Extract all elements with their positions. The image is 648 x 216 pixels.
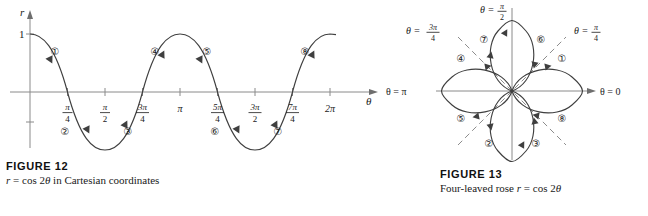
rose-marker-8: ⑧	[558, 113, 567, 124]
svg-text:π: π	[594, 23, 599, 32]
svg-text:θ =: θ =	[406, 25, 420, 36]
svg-text:4: 4	[431, 34, 435, 43]
rose-marker-2: ②	[485, 138, 494, 149]
svg-text:π: π	[500, 2, 505, 11]
svg-text:3π: 3π	[428, 23, 438, 32]
figure-12-caption-eq: =	[10, 174, 22, 186]
segment-marker-7: ⑦	[274, 126, 283, 137]
svg-text:π: π	[65, 102, 70, 112]
ray-label-theta-3pi-over-4: θ = 3π 4	[406, 23, 440, 43]
rose-marker-5: ⑤	[457, 113, 466, 124]
svg-text:4: 4	[140, 114, 145, 124]
figure-12-panel: r θ 1 π 4 π 2 3π 4 π 5π 4	[0, 0, 324, 216]
figure-13-caption-lead: Four-leaved rose	[440, 182, 517, 194]
svg-text:2: 2	[500, 13, 504, 22]
rose-marker-4: ④	[457, 53, 466, 64]
segment-marker-4: ④	[151, 46, 160, 57]
svg-text:θ =: θ =	[480, 4, 494, 15]
segment-marker-2: ②	[61, 126, 70, 137]
figure-13-plot: θ = 0 θ = π θ = π 4 θ = π 2 θ = 3π	[324, 0, 648, 170]
svg-text:4: 4	[215, 114, 220, 124]
x-tick-label-3pi-over-2: 3π 2	[249, 102, 262, 124]
svg-text:3π: 3π	[249, 102, 260, 112]
r-axis-label: r	[20, 6, 25, 18]
svg-text:θ =: θ =	[574, 25, 588, 36]
figure-12-caption: FIGURE 12 r = cos 2θ in Cartesian coordi…	[6, 160, 318, 187]
x-tick-label-7pi-over-4: 7π 4	[286, 102, 299, 124]
svg-text:4: 4	[594, 34, 598, 43]
figure-12-caption-cos: cos 2	[22, 174, 45, 186]
rose-marker-7: ⑦	[480, 34, 489, 45]
x-tick-label-3pi-over-4: 3π 4	[136, 102, 149, 124]
rose-marker-1: ①	[558, 53, 567, 64]
svg-text:7π: 7π	[288, 102, 298, 112]
ray-label-theta-pi-over-2: θ = π 2	[480, 2, 507, 22]
figure-13-caption-cos: cos 2	[533, 182, 556, 194]
x-tick-label-5pi-over-4: 5π 4	[211, 102, 224, 124]
ray-label-theta-pi-over-4: θ = π 4	[574, 23, 601, 43]
theta-axis	[10, 89, 378, 95]
segment-marker-1: ①	[51, 46, 60, 57]
svg-text:2: 2	[103, 114, 108, 124]
svg-text:2: 2	[253, 114, 258, 124]
svg-text:4: 4	[65, 114, 70, 124]
figure-13-caption-theta: θ	[556, 182, 561, 194]
svg-text:3π: 3π	[137, 102, 148, 112]
r-axis	[27, 10, 33, 148]
figure-12-title: FIGURE 12	[6, 160, 318, 173]
rose-marker-6: ⑥	[537, 34, 546, 45]
segment-marker-5: ⑤	[203, 46, 212, 57]
segment-marker-8: ⑧	[301, 46, 310, 57]
ray-label-theta-pi: θ = π	[386, 86, 406, 97]
ray-label-theta-0: θ = 0	[600, 86, 620, 97]
y-value-one-label: 1	[19, 28, 25, 40]
figure-12-subtitle: r = cos 2θ in Cartesian coordinates	[6, 173, 318, 187]
figure-pair-page: r θ 1 π 4 π 2 3π 4 π 5π 4	[0, 0, 648, 216]
segment-marker-3: ③	[124, 126, 133, 137]
svg-text:4: 4	[290, 114, 295, 124]
figure-13-caption: FIGURE 13 Four-leaved rose r = cos 2θ	[440, 168, 648, 195]
figure-13-title: FIGURE 13	[440, 168, 648, 181]
x-tick-label-pi-over-2: π 2	[100, 102, 110, 124]
svg-text:5π: 5π	[213, 102, 223, 112]
svg-text:π: π	[103, 102, 108, 112]
x-tick-label-pi: π	[177, 103, 183, 114]
figure-13-subtitle: Four-leaved rose r = cos 2θ	[440, 181, 648, 195]
rose-marker-3: ③	[532, 138, 541, 149]
figure-13-caption-eq: =	[521, 182, 533, 194]
figure-12-caption-tail: in Cartesian coordinates	[50, 174, 159, 186]
figure-13-panel: θ = 0 θ = π θ = π 4 θ = π 2 θ = 3π	[324, 0, 648, 216]
segment-marker-6: ⑥	[211, 126, 220, 137]
